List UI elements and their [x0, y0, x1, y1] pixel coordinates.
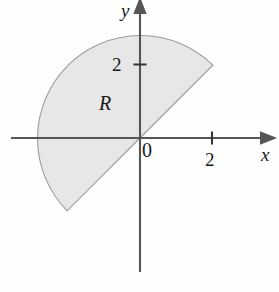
origin-label: 0	[142, 140, 152, 160]
figure-container: y x 2 2 0 R	[0, 0, 279, 292]
x-axis-tick-label-2: 2	[205, 150, 215, 169]
shaded-region-sector	[38, 36, 213, 211]
sector-plot-svg	[0, 0, 279, 292]
region-label-R: R	[99, 93, 111, 113]
y-axis-tick-label-2: 2	[112, 55, 122, 74]
x-axis-label: x	[261, 145, 269, 164]
y-axis-label: y	[121, 1, 129, 20]
